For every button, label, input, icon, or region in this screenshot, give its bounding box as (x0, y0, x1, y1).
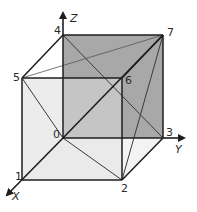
vertex-label-4: 4 (54, 24, 61, 37)
vertex-label-6: 6 (125, 74, 132, 87)
vertex-label-0: 0 (53, 128, 60, 141)
vertex-label-1: 1 (15, 170, 22, 183)
cube-diagram: Z Y X 0 1 2 3 4 5 6 7 (0, 0, 197, 212)
vertex-label-3: 3 (166, 126, 173, 139)
vertex-label-7: 7 (167, 26, 174, 39)
vertex-label-2: 2 (121, 182, 128, 195)
x-axis-label: X (11, 190, 20, 203)
y-axis-label: Y (175, 143, 183, 156)
z-axis-label: Z (69, 12, 78, 25)
vertex-label-5: 5 (13, 71, 20, 84)
